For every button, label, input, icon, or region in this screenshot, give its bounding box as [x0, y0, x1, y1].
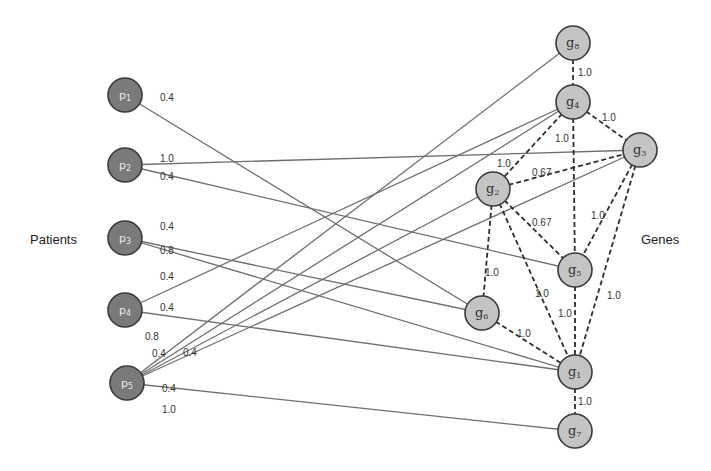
edge-weight-label: 0.4: [160, 271, 174, 282]
edge-weight-label: 0.67: [532, 217, 552, 228]
edge-weight-label: 0.8: [160, 245, 174, 256]
node-p5: p5: [110, 366, 144, 400]
edge-weight-label: 1.0: [517, 328, 531, 339]
node-g4: g4: [556, 85, 590, 119]
patient-gene-edge-p1-g6: [125, 95, 482, 313]
edge-weight-label: 0.4: [183, 347, 197, 358]
bipartite-network-diagram: Patients Genes 0.41.00.40.40.80.40.40.80…: [0, 0, 711, 471]
edge-weight-label: 0.4: [162, 383, 176, 394]
node-p2: p2: [108, 148, 142, 182]
node-p4: p4: [108, 293, 142, 327]
patient-gene-edge-p5-g7: [127, 383, 575, 431]
edge-weight-label: 1.0: [535, 288, 549, 299]
edge-weight-label: 1.0: [160, 153, 174, 164]
node-g5: g5: [558, 253, 592, 287]
edge-weight-layer: 0.41.00.40.40.80.40.40.80.40.40.41.01.01…: [145, 67, 621, 415]
node-g7: g7: [558, 414, 592, 448]
gene-gene-edge-g4-g5: [573, 102, 575, 270]
edge-weight-label: 1.0: [497, 158, 511, 169]
edge-weight-label: 0.67: [532, 167, 552, 178]
node-g6: g6: [465, 296, 499, 330]
edge-weight-label: 1.0: [485, 267, 499, 278]
node-g3: g3: [623, 133, 657, 167]
node-p3: p3: [108, 221, 142, 255]
edge-weight-label: 0.4: [160, 92, 174, 103]
node-p1: p1: [108, 78, 142, 112]
edge-weight-label: 0.8: [145, 331, 159, 342]
patient-gene-edge-p2-g3: [125, 150, 640, 165]
node-layer: p1p2p3p4p5g1g2g3g4g5g6g7g8: [108, 26, 657, 448]
edge-weight-label: 0.4: [160, 171, 174, 182]
node-g2: g2: [476, 172, 510, 206]
node-g1: g1: [558, 355, 592, 389]
edge-weight-label: 1.0: [162, 404, 176, 415]
edge-weight-label: 1.0: [607, 290, 621, 301]
edge-weight-label: 1.0: [578, 67, 592, 78]
edge-weight-label: 1.0: [578, 396, 592, 407]
node-g8: g8: [556, 26, 590, 60]
gene-gene-edge-g3-g5: [575, 150, 640, 270]
genes-label: Genes: [641, 232, 680, 247]
edge-weight-label: 0.4: [160, 221, 174, 232]
edge-weight-label: 1.0: [602, 112, 616, 123]
edge-weight-label: 1.0: [555, 133, 569, 144]
edge-weight-label: 0.4: [160, 302, 174, 313]
patient-gene-edge-p4-g4: [125, 102, 573, 310]
edge-weight-label: 0.4: [152, 348, 166, 359]
patients-label: Patients: [30, 232, 77, 247]
patient-gene-edge-p5-g8: [127, 43, 573, 383]
edge-weight-label: 1.0: [591, 210, 605, 221]
edge-weight-label: 1.0: [558, 308, 572, 319]
